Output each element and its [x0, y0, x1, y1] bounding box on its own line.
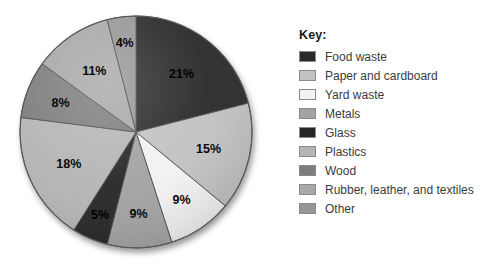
pie-slice-label: 11%	[82, 64, 106, 78]
pie-chart-area: 21%15%9%9%5%18%8%11%4%	[8, 6, 270, 262]
legend-item-label: Glass	[325, 127, 356, 139]
legend-swatch-icon	[299, 127, 316, 138]
legend-item-label: Paper and cardboard	[325, 70, 438, 82]
legend-swatch-icon	[299, 89, 316, 100]
pie-slice-label: 9%	[173, 193, 191, 207]
legend-swatch-icon	[299, 184, 316, 195]
legend-item[interactable]: Glass	[299, 123, 495, 142]
legend-item[interactable]: Paper and cardboard	[299, 66, 495, 85]
legend-swatch-icon	[299, 51, 316, 62]
pie-slice-label: 5%	[91, 208, 109, 222]
legend-item-list: Food wastePaper and cardboardYard wasteM…	[299, 47, 495, 218]
legend-item-label: Other	[325, 203, 355, 215]
legend-swatch-icon	[299, 108, 316, 119]
legend-item[interactable]: Other	[299, 199, 495, 218]
pie-chart-figure: 21%15%9%9%5%18%8%11%4% Key: Food wastePa…	[0, 0, 500, 266]
pie-slice-label: 4%	[116, 36, 134, 50]
legend-item[interactable]: Rubber, leather, and textiles	[299, 180, 495, 199]
legend-item-label: Wood	[325, 165, 356, 177]
pie-chart-svg: 21%15%9%9%5%18%8%11%4%	[8, 6, 270, 262]
legend-item-label: Rubber, leather, and textiles	[325, 184, 474, 196]
legend-item[interactable]: Plastics	[299, 142, 495, 161]
legend-item[interactable]: Food waste	[299, 47, 495, 66]
legend-swatch-icon	[299, 165, 316, 176]
legend-swatch-icon	[299, 70, 316, 81]
pie-slice-label: 21%	[169, 67, 194, 81]
pie-slice-label: 9%	[130, 207, 148, 221]
legend-swatch-icon	[299, 146, 316, 157]
legend-item-label: Metals	[325, 108, 360, 120]
legend-item-label: Yard waste	[325, 89, 384, 101]
legend-item-label: Food waste	[325, 51, 387, 63]
legend-item[interactable]: Yard waste	[299, 85, 495, 104]
pie-slice-label: 15%	[196, 142, 221, 156]
legend-item-label: Plastics	[325, 146, 366, 158]
legend-title: Key:	[299, 28, 495, 42]
legend-swatch-icon	[299, 203, 316, 214]
legend-item[interactable]: Metals	[299, 104, 495, 123]
pie-slice-label: 18%	[56, 157, 81, 171]
legend-item[interactable]: Wood	[299, 161, 495, 180]
pie-slice-label: 8%	[51, 96, 69, 110]
chart-legend: Key: Food wastePaper and cardboardYard w…	[299, 28, 495, 218]
